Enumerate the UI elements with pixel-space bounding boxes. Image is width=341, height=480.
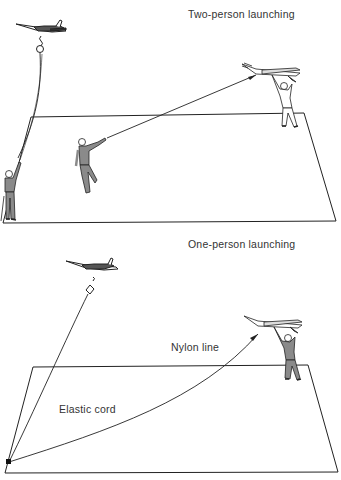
launcher-person-icon <box>242 63 300 127</box>
parachute-ring-icon <box>37 36 44 53</box>
parachute-ring-icon <box>86 277 95 294</box>
nylon-line <box>9 334 258 462</box>
person-winch-icon <box>1 162 21 221</box>
two-person-panel <box>1 20 336 223</box>
nylon-line-label: Nylon line <box>171 341 219 353</box>
launcher-person-icon <box>244 316 302 380</box>
field-outline-top <box>3 113 336 223</box>
panel-title-bottom: One-person launching <box>188 238 295 250</box>
arrow-head-icon <box>248 75 256 80</box>
field-outline-bottom <box>5 365 338 473</box>
tow-line-top <box>107 75 256 138</box>
elastic-cord-label: Elastic cord <box>59 403 116 415</box>
panel-title-top: Two-person launching <box>188 8 295 20</box>
one-person-panel <box>5 258 338 473</box>
glider-icon <box>66 258 118 270</box>
glider-icon <box>16 20 66 32</box>
person-runner-icon <box>76 138 106 193</box>
tow-line-top-left <box>18 53 40 158</box>
arrow-head-icon <box>250 334 258 341</box>
ground-stake-icon <box>6 459 11 464</box>
elastic-cord <box>9 294 88 462</box>
